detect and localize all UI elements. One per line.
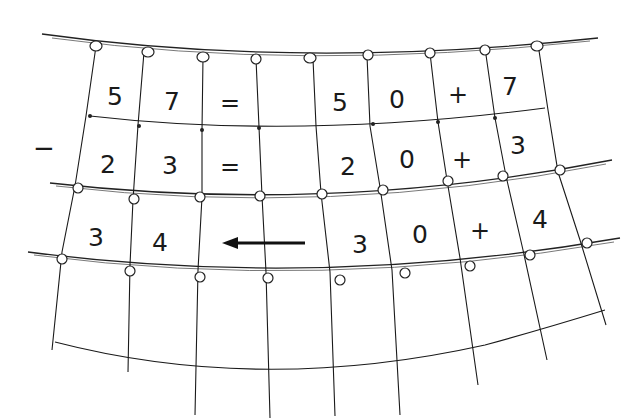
cell-r1-c5: 5 [320, 88, 360, 118]
cell-r3-c6: 0 [400, 220, 440, 250]
cell-r1-c3: = [210, 88, 250, 118]
arrow-left-icon [222, 237, 305, 249]
cell-r2-c6: 0 [387, 145, 427, 175]
cell-r3-c2: 4 [140, 228, 180, 258]
cell-r3-c5: 3 [340, 230, 380, 260]
cell-r1-c8: 7 [490, 72, 530, 102]
cell-r1-c6: 0 [377, 85, 417, 115]
cell-r2-c2: 3 [150, 151, 190, 181]
cell-r2-c8: 3 [498, 131, 538, 161]
cell-r3-c1: 3 [76, 223, 116, 253]
cell-r2-c1: 2 [88, 150, 128, 180]
cell-r1-c7: + [438, 80, 478, 110]
cell-r2-c7: + [442, 145, 482, 175]
cell-r1-c2: 7 [152, 87, 192, 117]
minus-operator: − [33, 133, 55, 163]
cell-r3-c8: 4 [520, 205, 560, 235]
cell-r3-c7: + [460, 216, 500, 246]
cell-r1-c1: 5 [95, 82, 135, 112]
cell-r2-c5: 2 [328, 152, 368, 182]
cell-r2-c3: = [210, 152, 250, 182]
